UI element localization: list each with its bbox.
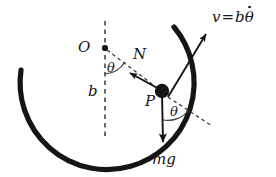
label-radius-b: b <box>88 84 98 99</box>
velocity-expression: v=bθ <box>212 10 254 25</box>
diagram-canvas <box>0 0 276 177</box>
center-point-marker <box>102 45 108 51</box>
label-angle-theta-center: θ <box>107 61 115 74</box>
label-center-O: O <box>78 40 90 55</box>
label-weight-mg: mg <box>152 152 176 167</box>
physics-diagram: O b N P mg θ θ v=bθ <box>0 0 276 177</box>
label-particle-P: P <box>145 94 155 109</box>
label-normal-force-N: N <box>133 47 146 62</box>
velocity-radius-symbol: b <box>235 8 245 26</box>
particle-marker <box>155 84 169 98</box>
label-angle-theta-particle: θ <box>170 105 178 118</box>
theta-dot-symbol: θ <box>245 10 254 25</box>
weight-vector <box>162 93 163 142</box>
label-velocity-expression: v=bθ <box>212 10 254 25</box>
normal-force-vector <box>130 73 159 89</box>
equals-sign: = <box>220 8 235 26</box>
theta-glyph: θ <box>245 8 254 26</box>
